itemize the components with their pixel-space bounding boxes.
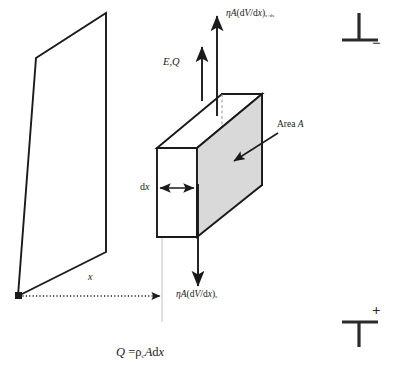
electrode-plane-outline	[18, 13, 106, 296]
flux-in-slash: /d	[200, 289, 207, 299]
x-distance-arrow	[15, 292, 160, 299]
area-label-symbol: A	[298, 119, 304, 129]
element-box	[157, 94, 262, 237]
equation-q: Q	[116, 345, 125, 359]
flux-in-label: ηA(dV/dx)x	[176, 290, 217, 300]
area-label-word: Area	[277, 119, 298, 129]
x-origin-marker	[15, 292, 22, 299]
electrode-plane	[18, 13, 106, 296]
charge-equation: Q =ρcAdx	[116, 346, 164, 360]
field-charge-label: E,Q	[163, 57, 180, 68]
flux-out-slash: /d	[250, 8, 257, 18]
positive-sign-label: +	[372, 303, 381, 318]
flux-in-subscript: x	[215, 294, 217, 299]
diagram-svg	[0, 0, 404, 375]
dx-label-x: x	[145, 181, 149, 192]
equation-equals: =	[125, 345, 135, 359]
negative-sign-label: −	[372, 36, 381, 51]
x-distance-label: x	[88, 272, 92, 282]
figure-canvas: ηA(dV/dx)x+dx ηA(dV/dx)x E,Q Area A dx x…	[0, 0, 404, 375]
electrode-positive-symbol	[342, 322, 378, 347]
dx-label: dx	[140, 182, 149, 192]
area-label: Area A	[277, 120, 304, 130]
flux-out-label: ηA(dV/dx)x+dx	[226, 9, 274, 19]
equation-dx-x: x	[159, 345, 165, 359]
flux-out-subscript: x+dx	[265, 13, 274, 18]
element-box-front-face	[157, 148, 197, 237]
